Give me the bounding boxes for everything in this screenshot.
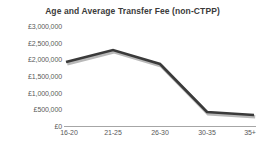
x-axis: 16-2021-2526-3030-3535+ xyxy=(66,129,254,143)
chart-container: Age and Average Transfer Fee (non-CTPP) … xyxy=(0,0,265,145)
x-tick-label: 21-25 xyxy=(104,129,121,136)
y-tick-label: £3,000,000 xyxy=(0,23,62,30)
chart-title: Age and Average Transfer Fee (non-CTPP) xyxy=(0,6,265,16)
y-tick-label: £1,500,000 xyxy=(0,73,62,80)
data-series-line xyxy=(66,26,254,126)
y-tick-label: £0 xyxy=(0,123,62,130)
y-tick-label: £500,000 xyxy=(0,106,62,113)
x-tick-label: 16-20 xyxy=(60,129,77,136)
x-tick-label: 35+ xyxy=(244,129,256,136)
y-axis: £0£500,000£1,000,000£1,500,000£2,000,000… xyxy=(0,26,62,126)
x-axis-line xyxy=(64,126,256,127)
x-tick-label: 30-35 xyxy=(198,129,215,136)
data-series-stroke xyxy=(66,50,254,115)
x-tick-label: 26-30 xyxy=(151,129,168,136)
y-tick-label: £2,000,000 xyxy=(0,56,62,63)
data-series-shadow xyxy=(67,52,255,117)
plot-area xyxy=(66,26,254,126)
y-tick-label: £2,500,000 xyxy=(0,39,62,46)
y-tick-label: £1,000,000 xyxy=(0,89,62,96)
